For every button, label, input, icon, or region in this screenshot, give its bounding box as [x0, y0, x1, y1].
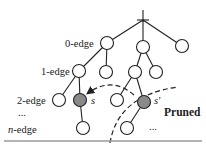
tree-node-f: [129, 66, 142, 79]
tree-node-d: [73, 65, 86, 78]
level-label-2: 2-edge: [17, 95, 46, 106]
tree-node-e: [100, 66, 113, 79]
node-label-s-prime: s': [154, 95, 161, 106]
tree-node-s: [74, 94, 87, 107]
tree-node-a: [101, 37, 114, 50]
pruned-ellipsis: ...: [149, 121, 157, 132]
tree-node-k: [121, 122, 134, 135]
level-label-1: 1-edge: [41, 66, 70, 77]
pruned-label: Pruned: [164, 106, 201, 118]
tree-node-s-prime: [138, 96, 151, 109]
level-label-n-suffix: -edge: [13, 124, 37, 135]
similarity-arrow: [88, 85, 134, 95]
tree-nodes: [53, 37, 189, 135]
level-label-ellipsis: ...: [18, 107, 26, 118]
tree-node-i: [111, 94, 124, 107]
level-label-0: 0-edge: [65, 38, 94, 49]
level-label-n: n-edge: [8, 124, 37, 135]
tree-node-b: [137, 41, 150, 54]
tree-node-g: [150, 66, 163, 79]
tree-node-h: [53, 94, 66, 107]
search-tree-diagram: 0-edge 1-edge 2-edge ... n-edge s s' Pru…: [0, 0, 206, 151]
node-label-s: s: [91, 95, 95, 106]
tree-node-c: [176, 40, 189, 53]
tree-node-j: [77, 122, 90, 135]
